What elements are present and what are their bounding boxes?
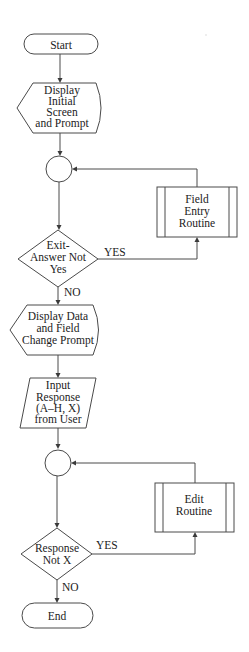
arrow-up-icon [193, 532, 198, 537]
arrow-down-icon [58, 151, 63, 156]
arrow-down-icon [56, 300, 61, 305]
arrow-down-icon [55, 598, 60, 603]
arrow-down-icon [56, 444, 61, 449]
node-display-data: Display Data and Field Change Prompt [10, 305, 99, 355]
node-label: Change Prompt [22, 334, 95, 347]
arrow-up-icon [195, 237, 200, 242]
node-label: End [48, 610, 67, 622]
flowchart: Start Display Initial Screen and Prompt … [0, 0, 249, 652]
node-connector-2 [45, 450, 71, 476]
edge-field-entry-back [75, 169, 197, 187]
node-end: End [22, 603, 93, 628]
node-label: Exit- [47, 239, 70, 251]
node-connector-1 [46, 156, 72, 182]
node-label: Yes [50, 263, 67, 275]
node-start: Start [24, 34, 98, 54]
node-field-entry: Field Entry Routine [157, 187, 237, 237]
edge-label-yes: YES [96, 539, 118, 551]
node-label: Routine [176, 505, 212, 517]
node-label: Edit [184, 493, 204, 505]
node-label: Field [185, 193, 209, 205]
speck-artifact [205, 34, 207, 36]
edge-label-no: NO [64, 286, 81, 298]
node-input-response: Input Response (A–H, X) from User [20, 378, 96, 428]
arrow-down-icon [56, 373, 61, 378]
node-label: and Prompt [35, 117, 89, 130]
node-label: and Field [36, 322, 79, 334]
edge-label-no: NO [62, 581, 79, 593]
node-label: Answer Not [30, 251, 87, 263]
node-edit-routine: Edit Routine [155, 483, 234, 532]
node-label: Routine [179, 217, 215, 229]
edge-edit-back [74, 463, 195, 483]
node-decision-exit: Exit- Answer Not Yes [18, 230, 98, 287]
arrow-left-icon [72, 167, 77, 172]
node-label: from User [35, 413, 82, 425]
node-label: Start [50, 39, 73, 51]
arrow-down-icon [55, 523, 60, 528]
arrow-left-icon [71, 461, 76, 466]
edge-label-yes: YES [104, 246, 126, 258]
arrow-down-icon [57, 225, 62, 230]
node-decision-response: Response Not X [21, 528, 92, 580]
node-label: Not X [43, 554, 72, 566]
arrow-down-icon [58, 78, 63, 83]
node-display-initial: Display Initial Screen and Prompt [17, 83, 101, 133]
